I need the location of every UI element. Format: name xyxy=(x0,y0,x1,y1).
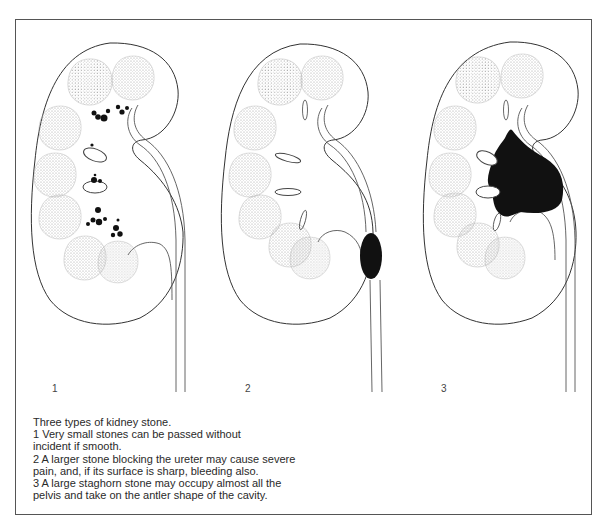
kidney-1 xyxy=(31,43,185,392)
staghorn-stone xyxy=(488,129,563,216)
ureter-stone xyxy=(360,233,382,279)
panel-number-1: 1 xyxy=(52,383,58,394)
caption-line: incident if smooth. xyxy=(33,440,333,452)
caption-line: 1 Very small stones can be passed withou… xyxy=(33,428,333,440)
caption-line: 3 A large staghorn stone may occupy almo… xyxy=(33,477,333,489)
kidney-3 xyxy=(423,42,578,392)
caption-title: Three types of kidney stone. xyxy=(33,416,333,428)
caption-line: pain, and, if its surface is sharp, blee… xyxy=(33,465,333,477)
caption-line: pelvis and take on the antler shape of t… xyxy=(33,489,333,501)
panel-number-3: 3 xyxy=(441,383,447,394)
kidney-2 xyxy=(221,44,382,392)
caption-line: 2 A larger stone blocking the ureter may… xyxy=(33,453,333,465)
panel-number-2: 2 xyxy=(245,383,251,394)
kidney-1-ureter xyxy=(128,105,185,392)
figure-caption: Three types of kidney stone. 1 Very smal… xyxy=(33,416,333,501)
small-stones xyxy=(86,105,129,237)
